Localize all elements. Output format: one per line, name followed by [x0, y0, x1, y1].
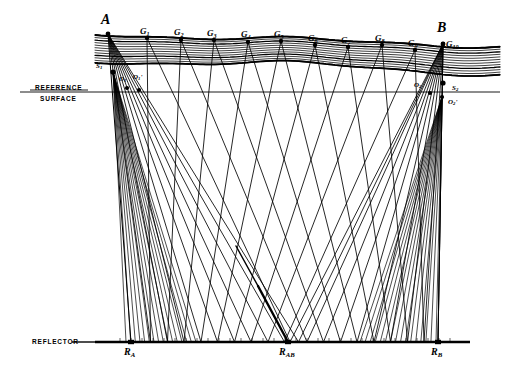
- station-label-O1p: O1': [133, 73, 142, 81]
- geophone-label-G10: G10: [446, 39, 459, 49]
- geophone-label-G1: G1: [140, 26, 150, 36]
- geophone-label-G6: G6: [308, 33, 318, 43]
- geophone-label-G5: G5: [274, 29, 284, 39]
- station-label-S2: S2: [452, 84, 458, 92]
- diagram-canvas: [0, 0, 510, 380]
- geophone-label-G8: G8: [375, 33, 385, 43]
- station-label-O1: O1: [119, 75, 126, 83]
- station-label-O2p: O2': [448, 98, 457, 106]
- reflection-point-label-RAB: RAB: [279, 346, 295, 357]
- ray-fans: [113, 72, 442, 342]
- reflector-label: REFLECTOR: [32, 338, 79, 345]
- geophone-label-G7: G7: [341, 35, 351, 45]
- geophone-label-G9: G9: [408, 38, 418, 48]
- source-label-B: B: [437, 20, 446, 36]
- reflection-point-label-RB: RB: [431, 346, 442, 357]
- station-label-S1: S1: [96, 62, 102, 70]
- geophone-label-G2: G2: [174, 27, 184, 37]
- geophone-label-G4: G4: [241, 29, 251, 39]
- reference-surface-label-line2: SURFACE: [40, 95, 77, 102]
- station-label-O2: O2: [414, 81, 421, 89]
- reference-surface-label-line1: REFERENCE: [35, 84, 82, 91]
- geophone-label-G3: G3: [207, 28, 217, 38]
- seismic-raypath-figure: ABG1G2G3G4G5G6G7G8G9G10S1O1O1'O2S2O2'RAR…: [0, 0, 510, 380]
- source-label-A: A: [101, 12, 110, 28]
- reflection-point-label-RA: RA: [124, 346, 135, 357]
